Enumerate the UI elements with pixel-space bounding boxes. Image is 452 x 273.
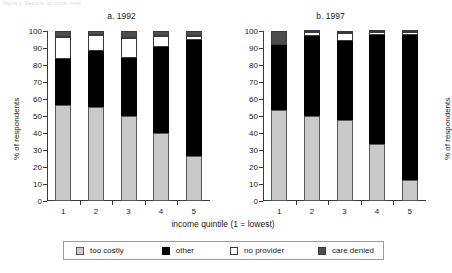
y-tick-label: 30 (33, 146, 42, 155)
bar-quintile-2[interactable] (304, 31, 320, 201)
y-tick-label: 10 (249, 180, 258, 189)
legend-label-care-denied: care denied (332, 246, 374, 255)
y-tick-label: 80 (33, 61, 42, 70)
y-tick (259, 150, 263, 151)
y-axis-label-a: % of respondents (12, 98, 21, 160)
x-tick-label: 2 (94, 207, 98, 216)
y-tick-label: 50 (33, 112, 42, 121)
bar-segment-other (186, 40, 202, 156)
bar-segment-care-denied (153, 31, 169, 36)
bar-segment-too-costly (88, 107, 104, 201)
bar-segment-no-provider (337, 33, 353, 42)
legend-item-other: other (162, 246, 194, 255)
y-tick (259, 48, 263, 49)
panel-1992: a. 1992 % of respondents 010203040506070… (0, 0, 223, 238)
panel-1997: b. 1997 % of respondents 010203040506070… (215, 0, 446, 238)
x-tick-label: 3 (126, 207, 130, 216)
bar-segment-no-provider (153, 36, 169, 47)
y-axis-label-b: % of respondents (443, 98, 452, 160)
y-axis-line-b (263, 31, 264, 201)
x-tick-label: 4 (159, 207, 163, 216)
chart-legend: too costly other no provider care denied (63, 241, 384, 260)
legend-swatch-no-provider (230, 247, 238, 255)
bar-segment-other (304, 36, 320, 116)
bar-quintile-1[interactable] (55, 31, 71, 201)
bar-segment-too-costly (304, 116, 320, 201)
y-tick-label: 30 (249, 146, 258, 155)
bar-segment-care-denied (186, 31, 202, 36)
bar-quintile-2[interactable] (88, 31, 104, 201)
bar-segment-other (337, 41, 353, 120)
bar-segment-too-costly (186, 156, 202, 201)
bar-segment-too-costly (121, 116, 137, 201)
x-axis-title: income quintile (1 = lowest) (0, 219, 446, 229)
legend-swatch-other (162, 247, 170, 255)
y-tick-label: 90 (249, 44, 258, 53)
panel-title-b: b. 1997 (215, 11, 446, 21)
bar-quintile-5[interactable] (186, 31, 202, 201)
y-tick-label: 0 (38, 197, 42, 206)
y-tick-label: 100 (245, 27, 258, 36)
y-axis-line-a (47, 31, 48, 201)
bar-segment-no-provider (304, 32, 320, 36)
bar-quintile-1[interactable] (271, 31, 287, 201)
y-tick (259, 184, 263, 185)
y-tick-label: 70 (249, 78, 258, 87)
y-tick-label: 60 (33, 95, 42, 104)
y-tick (43, 82, 47, 83)
x-tick-label: 1 (61, 207, 65, 216)
legend-item-no-provider: no provider (230, 246, 284, 255)
y-tick-label: 80 (249, 61, 258, 70)
x-tick (361, 201, 362, 205)
bar-segment-no-provider (186, 36, 202, 39)
x-tick (80, 201, 81, 205)
y-tick (259, 116, 263, 117)
panel-title-a: a. 1992 (10, 11, 233, 21)
y-tick (43, 150, 47, 151)
y-tick (43, 116, 47, 117)
bar-segment-no-provider (55, 37, 71, 59)
x-tick (393, 201, 394, 205)
bar-segment-other (402, 35, 418, 180)
x-tick-label: 5 (407, 207, 411, 216)
legend-label-no-provider: no provider (244, 246, 284, 255)
bar-quintile-4[interactable] (153, 31, 169, 201)
bar-quintile-3[interactable] (121, 31, 137, 201)
bar-segment-care-denied (337, 31, 353, 33)
y-tick (43, 184, 47, 185)
plot-area-a: 010203040506070809010012345 (47, 31, 210, 201)
bar-quintile-5[interactable] (402, 31, 418, 201)
y-tick-label: 20 (33, 163, 42, 172)
x-tick (112, 201, 113, 205)
y-tick (43, 48, 47, 49)
x-tick-label: 4 (375, 207, 379, 216)
y-tick (259, 65, 263, 66)
bar-segment-other (153, 47, 169, 133)
bar-segment-too-costly (402, 180, 418, 201)
bar-segment-care-denied (369, 30, 385, 32)
y-tick (259, 99, 263, 100)
x-tick-label: 5 (191, 207, 195, 216)
bar-segment-no-provider (402, 32, 418, 35)
bar-quintile-4[interactable] (369, 31, 385, 201)
x-tick (296, 201, 297, 205)
y-tick-label: 20 (249, 163, 258, 172)
bar-segment-no-provider (88, 35, 104, 50)
y-tick (259, 133, 263, 134)
x-tick (328, 201, 329, 205)
bar-segment-other (121, 58, 137, 116)
legend-swatch-care-denied (318, 247, 326, 255)
bar-segment-too-costly (55, 105, 71, 201)
y-tick-label: 10 (33, 180, 42, 189)
bar-segment-too-costly (153, 133, 169, 201)
y-tick (259, 167, 263, 168)
y-tick-label: 40 (249, 129, 258, 138)
bar-segment-too-costly (337, 120, 353, 201)
y-tick-label: 90 (33, 44, 42, 53)
bar-quintile-3[interactable] (337, 31, 353, 201)
bar-segment-care-denied (88, 31, 104, 35)
legend-item-too-costly: too costly (76, 246, 124, 255)
x-tick (145, 201, 146, 205)
bar-segment-care-denied (402, 30, 418, 32)
bar-segment-too-costly (271, 110, 287, 201)
